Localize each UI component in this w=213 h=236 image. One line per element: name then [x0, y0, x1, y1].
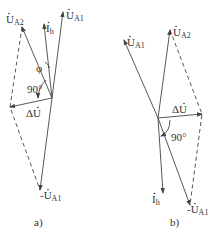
svg-text:90°: 90°: [27, 83, 42, 95]
svg-text:UA2: UA2: [173, 26, 191, 40]
phasor-neg-ua1-a: [40, 98, 52, 190]
phasor-du-a: [10, 98, 52, 107]
svg-text:UA2: UA2: [6, 13, 24, 27]
svg-text:Ih: Ih: [152, 193, 160, 207]
diagram-b: [124, 30, 202, 205]
svg-text:Ih: Ih: [46, 22, 54, 36]
svg-text:-UA1: -UA1: [187, 203, 208, 217]
phasor-ua1-a: [52, 12, 63, 98]
right-angle-arc-b: [161, 120, 170, 136]
svg-text:ΔU: ΔU: [172, 103, 187, 115]
svg-text:φ: φ: [36, 62, 42, 74]
caption-b: b): [170, 216, 180, 229]
caption-a: a): [34, 216, 43, 229]
dashed-construction-b: [170, 30, 202, 205]
diagram-a: [10, 12, 63, 190]
svg-text:90°: 90°: [171, 131, 186, 143]
svg-text:UA1: UA1: [127, 36, 145, 50]
phasor-ua2-b: [158, 30, 170, 118]
svg-text:UA1: UA1: [66, 9, 84, 23]
phasor-ua1-b: [124, 40, 158, 118]
phasor-diagram-figure: UA1 Ih UA2 ΔU -UA1 φ 90° a) UA1 UA2 ΔU 9…: [0, 0, 213, 236]
svg-text:-UA1: -UA1: [40, 189, 61, 203]
svg-text:ΔU: ΔU: [26, 107, 41, 119]
labels-b: UA1 UA2 ΔU 90° Ih -UA1 b): [127, 26, 208, 229]
phi-arc-a: [45, 62, 50, 68]
labels-a: UA1 Ih UA2 ΔU -UA1 φ 90° a): [6, 9, 84, 229]
